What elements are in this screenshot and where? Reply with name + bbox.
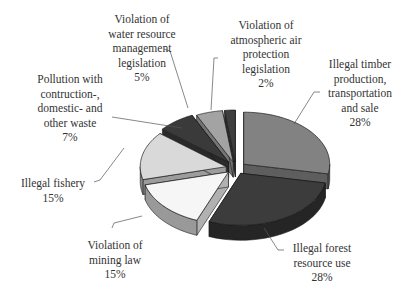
- label-fishery: Illegal fishery15%: [10, 176, 96, 205]
- label-mining: Violation of mining law15%: [70, 238, 160, 282]
- label-water: Violation of water resource management l…: [96, 12, 188, 85]
- label-timber: Illegal timber production, transportatio…: [314, 57, 406, 130]
- leader-pollution: [112, 117, 182, 128]
- leader-fishery: [94, 148, 124, 182]
- leader-air: [211, 58, 218, 110]
- leader-mining: [112, 216, 142, 228]
- label-air: Violation of atmospheric air protection …: [218, 18, 314, 91]
- label-forest: Illegal forest resource use28%: [274, 241, 370, 285]
